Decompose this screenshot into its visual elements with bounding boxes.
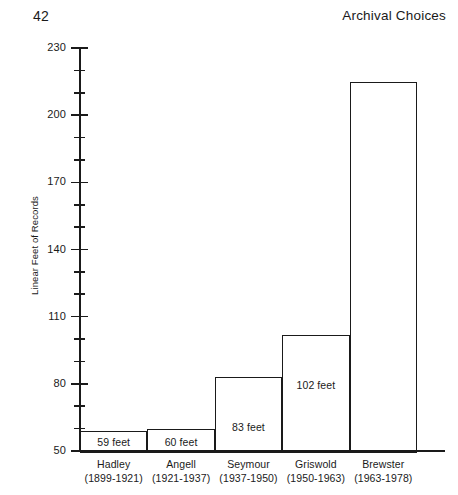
y-axis-tick-label: 80 xyxy=(26,377,66,389)
bar-value-label: 102 feet xyxy=(282,379,349,391)
y-axis-minor-tick xyxy=(74,338,85,340)
y-axis-minor-tick xyxy=(74,361,85,363)
y-axis-major-tick xyxy=(71,383,88,385)
x-axis-label-years: (1963-1978) xyxy=(328,472,438,486)
bar-chart-figure: Linear Feet of Records 23020017014011080… xyxy=(0,0,458,495)
y-axis-major-tick xyxy=(71,114,88,116)
bar-value-label: 83 feet xyxy=(215,421,282,433)
bar-seymour xyxy=(215,377,282,452)
y-axis-tick-label: 170 xyxy=(26,175,66,187)
y-axis-tick-label: 140 xyxy=(26,243,66,255)
y-axis-major-tick xyxy=(71,249,88,251)
bar-griswold xyxy=(282,335,349,453)
y-axis-minor-tick xyxy=(74,271,85,273)
y-axis-major-tick xyxy=(71,316,88,318)
y-axis-minor-tick xyxy=(74,293,85,295)
y-axis-tick-label: 110 xyxy=(26,310,66,322)
y-axis-major-tick xyxy=(71,182,88,184)
y-axis-minor-tick xyxy=(74,159,85,161)
x-axis-label-brewster: Brewster(1963-1978) xyxy=(328,458,438,485)
bar-brewster xyxy=(350,82,417,453)
y-axis-minor-tick xyxy=(74,405,85,407)
y-axis-minor-tick xyxy=(74,204,85,206)
y-axis-tick-label: 50 xyxy=(26,444,66,456)
y-axis-minor-tick xyxy=(74,70,85,72)
y-axis-tick-label: 200 xyxy=(26,108,66,120)
y-axis-minor-tick xyxy=(74,428,85,430)
x-axis-label-name: Brewster xyxy=(362,458,404,470)
x-axis-label-name: Angell xyxy=(166,458,196,470)
bar-value-label: 60 feet xyxy=(147,436,214,448)
bar-value-label: 59 feet xyxy=(80,436,147,448)
y-axis-major-tick xyxy=(71,47,88,49)
y-axis-minor-tick xyxy=(74,226,85,228)
y-axis-minor-tick xyxy=(74,92,85,94)
y-axis-tick-label: 230 xyxy=(26,41,66,53)
y-axis-minor-tick xyxy=(74,137,85,139)
